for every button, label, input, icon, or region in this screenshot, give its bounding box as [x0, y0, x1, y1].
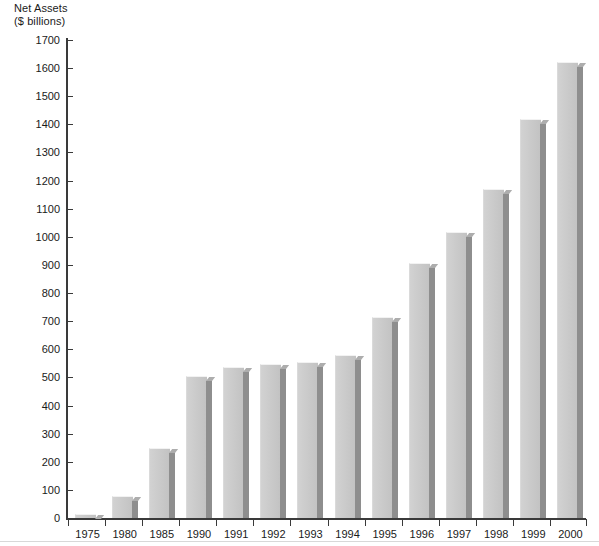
y-axis-label: 1400 — [6, 119, 60, 130]
bar-top-bevel — [466, 233, 475, 237]
bar-face — [483, 189, 504, 518]
y-axis-tick — [66, 181, 73, 182]
x-axis-tick — [328, 519, 329, 526]
y-axis-title: Net Assets ($ billions) — [14, 2, 68, 28]
y-axis-label: 1000 — [6, 232, 60, 243]
y-axis-tick — [66, 434, 73, 435]
y-axis-tick — [66, 293, 73, 294]
bar — [223, 368, 249, 518]
bar-top-bevel — [317, 363, 326, 367]
y-axis-tick — [66, 152, 73, 153]
x-axis-tick — [365, 519, 366, 526]
x-axis-tick — [476, 519, 477, 526]
y-axis-tick — [66, 462, 73, 463]
y-axis-label: 600 — [6, 344, 60, 355]
bar-face — [112, 496, 133, 518]
x-axis-label: 2000 — [547, 528, 593, 540]
bar-shadow — [206, 381, 212, 518]
bar — [149, 449, 175, 518]
x-axis-tick — [439, 519, 440, 526]
y-axis-tick — [66, 209, 73, 210]
bar-top-bevel — [577, 63, 586, 67]
y-axis-tick — [66, 321, 73, 322]
y-axis-tick — [66, 96, 73, 97]
y-axis-label: 100 — [6, 485, 60, 496]
bar-face — [372, 317, 393, 518]
y-axis-label: 0 — [6, 513, 60, 524]
bar-face — [557, 62, 578, 519]
bar-face — [446, 232, 467, 518]
bar-top-bevel — [169, 449, 178, 453]
y-axis-label: 300 — [6, 429, 60, 440]
bar-face — [149, 448, 170, 518]
y-axis-label: 800 — [6, 288, 60, 299]
y-axis-label: 200 — [6, 457, 60, 468]
y-axis-label: 700 — [6, 316, 60, 327]
y-axis-tick — [66, 490, 73, 491]
bar-top-bevel — [429, 264, 438, 268]
bar-face — [409, 263, 430, 518]
y-axis-label: 1300 — [6, 147, 60, 158]
bar — [446, 233, 472, 518]
bar — [520, 120, 546, 518]
y-axis-label: 500 — [6, 372, 60, 383]
y-axis-title-line-2: ($ billions) — [14, 15, 68, 28]
x-axis-tick — [290, 519, 291, 526]
bar — [260, 365, 286, 518]
bar — [75, 515, 101, 518]
bar-face — [297, 362, 318, 518]
bar-shadow — [540, 124, 546, 518]
bar — [297, 363, 323, 518]
x-axis-tick — [216, 519, 217, 526]
net-assets-bar-chart: Net Assets ($ billions) 0100200300400500… — [0, 0, 599, 546]
bar-shadow — [317, 367, 323, 518]
y-axis-label: 1700 — [6, 35, 60, 46]
bar — [186, 377, 212, 518]
y-axis-tick — [66, 349, 73, 350]
x-axis-tick — [105, 519, 106, 526]
bar-shadow — [132, 501, 138, 518]
bar-top-bevel — [206, 377, 215, 381]
y-axis-tick — [66, 265, 73, 266]
bar — [483, 190, 509, 518]
bar-top-bevel — [503, 190, 512, 194]
bar-top-bevel — [392, 318, 401, 322]
y-axis-tick — [66, 68, 73, 69]
x-axis-tick — [550, 519, 551, 526]
x-axis-tick — [179, 519, 180, 526]
y-axis-tick — [66, 377, 73, 378]
bar-shadow — [169, 453, 175, 518]
bar-face — [186, 376, 207, 518]
bar-face — [520, 119, 541, 518]
y-axis-title-line-1: Net Assets — [14, 2, 68, 14]
y-axis-label: 900 — [6, 260, 60, 271]
plot-area — [66, 40, 586, 518]
x-axis-line — [66, 518, 586, 520]
x-axis-tick — [586, 519, 587, 526]
bar — [335, 356, 361, 518]
y-axis-label: 400 — [6, 401, 60, 412]
y-axis-tick — [66, 40, 73, 41]
x-axis-tick — [68, 519, 69, 526]
bar-shadow — [577, 67, 583, 519]
y-axis-tick — [66, 406, 73, 407]
bar-shadow — [243, 372, 249, 518]
bar-top-bevel — [540, 120, 549, 124]
footer-divider — [0, 541, 599, 542]
y-axis-label: 1500 — [6, 91, 60, 102]
bar — [557, 63, 583, 519]
y-axis-label: 1600 — [6, 63, 60, 74]
y-axis-label: 1200 — [6, 176, 60, 187]
bar-shadow — [355, 360, 361, 518]
x-axis-tick — [142, 519, 143, 526]
bar-top-bevel — [355, 356, 364, 360]
bar-face — [75, 514, 96, 518]
bar-face — [335, 355, 356, 518]
bar-top-bevel — [280, 365, 289, 369]
x-axis-tick — [513, 519, 514, 526]
bar-top-bevel — [243, 368, 252, 372]
bar-shadow — [466, 237, 472, 518]
bar-shadow — [392, 322, 398, 518]
bar — [409, 264, 435, 518]
bar-face — [223, 367, 244, 518]
